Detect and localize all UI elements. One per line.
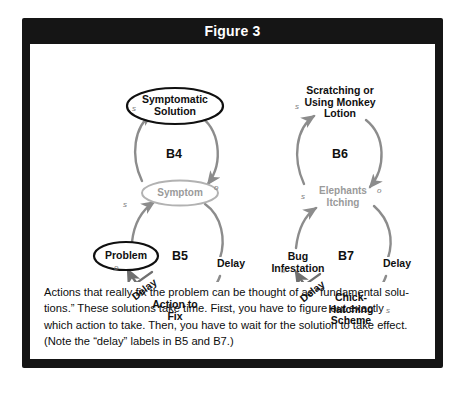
figure-panel: Symptomatic Solution Symptom Problem Act…	[30, 44, 435, 359]
arc-itching-to-delay-upper	[374, 206, 391, 258]
arc-problem-to-symptom	[132, 202, 154, 242]
causal-loop-diagram: Symptomatic Solution Symptom Problem Act…	[30, 44, 435, 282]
arc-bug-infestation-to-itching	[296, 208, 316, 248]
delay-label-b7-right: Delay	[382, 257, 412, 269]
node-bug-infestation: Bug Infestation	[262, 251, 334, 274]
left-loop-b5-arcs	[128, 202, 223, 282]
figure-title-band: Figure 3	[22, 18, 443, 44]
figure-frame: Figure 3	[22, 18, 443, 368]
arc-scratching-to-itching	[366, 120, 382, 187]
polarity-b6-s: s	[295, 102, 299, 111]
loop-label-b6: B6	[332, 147, 348, 161]
arc-itching-to-scratching	[297, 116, 314, 184]
polarity-b4-o: o	[214, 183, 218, 192]
polarity-b6-o: o	[377, 186, 381, 195]
polarity-b5-o-left: o	[114, 263, 118, 272]
arc-symptomatic-solution-to-symptom	[198, 115, 218, 184]
node-symptomatic-solution: Symptomatic Solution	[127, 94, 223, 117]
polarity-b7-o-left: o	[281, 266, 285, 275]
loop-label-b7: B7	[338, 249, 354, 263]
caption-line-3: which action to take. Then, you have to …	[44, 317, 420, 333]
node-symptom: Symptom	[142, 187, 218, 199]
diagram-arcs-svg	[30, 44, 435, 282]
arc-symptom-to-symptomatic-solution	[135, 114, 152, 181]
delay-label-b5-right: Delay	[216, 257, 246, 269]
arc-delay-to-action-to-fix	[194, 276, 220, 282]
node-elephants-itching: Elephants Itching	[310, 185, 376, 208]
loop-label-b5: B5	[172, 249, 188, 263]
polarity-b4-s: s	[132, 104, 136, 113]
node-scratching-monkey-lotion: Scratching or Using Monkey Lotion	[296, 85, 384, 120]
caption-line-1: Actions that really fix the problem can …	[44, 284, 420, 300]
caption-line-2: tions.” These solutions take time. First…	[44, 300, 420, 316]
arc-symptom-to-delay-upper	[205, 204, 223, 258]
polarity-b5-s-left: s	[123, 200, 127, 209]
polarity-b7-s-left: s	[301, 192, 305, 201]
arc-delay-to-chick-hatching-scheme	[364, 276, 386, 282]
figure-caption: Actions that really fix the problem can …	[44, 284, 420, 350]
node-problem: Problem	[94, 250, 158, 262]
caption-line-4: (Note the “delay” labels in B5 and B7.)	[44, 333, 420, 349]
figure-title: Figure 3	[204, 23, 260, 39]
loop-label-b4: B4	[166, 147, 182, 161]
